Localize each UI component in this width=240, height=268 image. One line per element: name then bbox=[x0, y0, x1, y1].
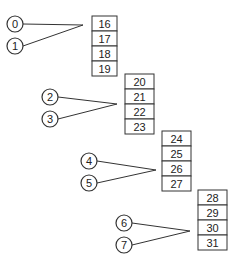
input-node-label: 2 bbox=[47, 91, 53, 103]
register-cell-label: 30 bbox=[206, 222, 218, 234]
register-cell-label: 18 bbox=[98, 48, 110, 60]
register-cell-label: 24 bbox=[170, 133, 182, 145]
input-node-label: 7 bbox=[121, 239, 127, 251]
connector-line bbox=[23, 24, 83, 25]
input-node-label: 6 bbox=[121, 217, 127, 229]
register-cell-label: 31 bbox=[206, 237, 218, 249]
register-cell-label: 19 bbox=[98, 63, 110, 75]
register-cell-label: 22 bbox=[133, 106, 145, 118]
input-node-label: 5 bbox=[86, 177, 92, 189]
connector-line bbox=[58, 97, 117, 104]
connector-line bbox=[23, 25, 83, 46]
connector-line bbox=[132, 231, 190, 245]
register-cell-label: 29 bbox=[206, 207, 218, 219]
mapping-diagram: 0116171819232021222345242526276728293031 bbox=[0, 0, 240, 268]
register-cell-label: 27 bbox=[170, 178, 182, 190]
register-cell-label: 26 bbox=[170, 163, 182, 175]
register-cell-label: 25 bbox=[170, 148, 182, 160]
connector-line bbox=[58, 104, 117, 119]
input-node-label: 1 bbox=[12, 40, 18, 52]
register-cell-label: 28 bbox=[206, 192, 218, 204]
register-cell-label: 17 bbox=[98, 33, 110, 45]
mapping-group: 2320212223 bbox=[42, 74, 154, 134]
connector-line bbox=[97, 170, 156, 183]
mapping-group: 6728293031 bbox=[116, 190, 227, 253]
connector-line bbox=[97, 161, 156, 170]
input-node-label: 0 bbox=[12, 18, 18, 30]
mapping-group: 4524252627 bbox=[81, 131, 191, 191]
register-cell-label: 16 bbox=[98, 18, 110, 30]
mapping-group: 0116171819 bbox=[7, 16, 117, 76]
register-cell-label: 20 bbox=[133, 76, 145, 88]
register-cell-label: 23 bbox=[133, 121, 145, 133]
register-cell-label: 21 bbox=[133, 91, 145, 103]
input-node-label: 3 bbox=[47, 113, 53, 125]
input-node-label: 4 bbox=[86, 155, 92, 167]
connector-line bbox=[132, 223, 190, 231]
